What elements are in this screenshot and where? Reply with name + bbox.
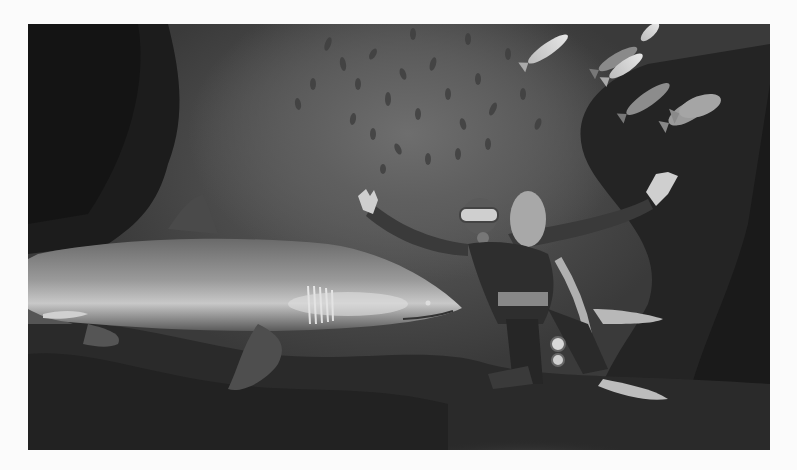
photo-scene (28, 24, 770, 450)
underwater-photo (28, 24, 770, 450)
fish-school (294, 28, 543, 174)
left-rock (28, 24, 180, 254)
